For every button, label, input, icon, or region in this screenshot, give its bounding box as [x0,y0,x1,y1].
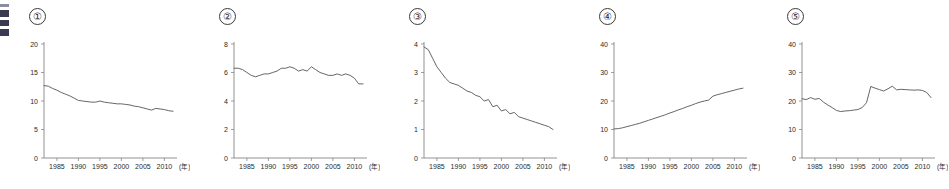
y-tick-label-2-4: 8 [224,41,228,48]
x-tick-label-5-1: 1990 [829,163,845,170]
chart-panel-4: ④010203040198519901995200020052010(年) [570,0,760,189]
y-tick-label-3-1: 1 [414,126,418,133]
y-tick-label-3-2: 2 [414,98,418,105]
x-tick-label-4-4: 2005 [705,163,721,170]
chart-panel-1: ①05101520198519901995200020052010(年) [0,0,190,189]
x-tick-label-1-0: 1985 [49,163,65,170]
y-tick-label-2-3: 6 [224,69,228,76]
x-tick-label-5-0: 1985 [807,163,823,170]
x-tick-label-4-3: 2000 [684,163,700,170]
y-tick-label-3-0: 0 [414,155,418,162]
x-tick-label-3-3: 2000 [494,163,510,170]
y-tick-label-1-1: 5 [34,126,38,133]
x-tick-label-1-2: 1995 [92,163,108,170]
x-axis-unit-label-2: (年) [369,162,380,171]
x-tick-label-2-3: 2000 [304,163,320,170]
x-tick-label-3-0: 1985 [429,163,445,170]
plot-area-1: 05101520198519901995200020052010(年) [0,30,190,185]
x-tick-label-3-2: 1995 [472,163,488,170]
y-tick-label-4-1: 10 [600,126,608,133]
line-chart-4: 010203040198519901995200020052010(年) [570,30,760,185]
x-axis-unit-label-5: (年) [937,162,948,171]
y-tick-label-5-1: 10 [788,126,796,133]
x-tick-label-3-1: 1990 [451,163,467,170]
plot-area-4: 010203040198519901995200020052010(年) [570,30,760,185]
line-chart-3: 01234198519901995200020052010(年) [380,30,570,185]
y-tick-label-4-0: 0 [604,155,608,162]
x-tick-label-2-2: 1995 [282,163,298,170]
x-tick-label-4-2: 1995 [662,163,678,170]
x-tick-label-5-2: 1995 [850,163,866,170]
x-tick-label-4-5: 2010 [727,163,743,170]
y-tick-label-4-4: 40 [600,41,608,48]
data-series-line-4 [614,88,743,129]
x-axis-unit-label-3: (年) [559,162,570,171]
y-tick-label-2-0: 0 [224,155,228,162]
x-tick-label-5-5: 2010 [915,163,931,170]
panel-index-label-4: ④ [599,8,616,25]
panel-index-label-2: ② [219,8,236,25]
y-tick-label-2-2: 4 [224,98,228,105]
data-series-line-5 [802,86,931,111]
y-tick-label-4-3: 30 [600,69,608,76]
chart-panel-3: ③01234198519901995200020052010(年) [380,0,570,189]
x-tick-label-2-1: 1990 [261,163,277,170]
x-tick-label-5-3: 2000 [872,163,888,170]
panel-index-label-1: ① [29,8,46,25]
y-tick-label-3-3: 3 [414,69,418,76]
data-series-line-1 [44,86,173,112]
panel-index-label-3: ③ [409,8,426,25]
x-tick-label-4-1: 1990 [641,163,657,170]
line-chart-1: 05101520198519901995200020052010(年) [0,30,190,185]
panel-index-label-5: ⑤ [787,8,804,25]
y-tick-label-5-3: 30 [788,69,796,76]
data-series-line-2 [234,67,363,84]
y-tick-label-4-2: 20 [600,98,608,105]
plot-area-5: 010203040198519901995200020052010(年) [758,30,948,185]
x-tick-label-5-4: 2005 [893,163,909,170]
y-tick-label-5-0: 0 [792,155,796,162]
y-tick-label-3-4: 4 [414,41,418,48]
x-tick-label-2-5: 2010 [347,163,363,170]
x-tick-label-1-1: 1990 [71,163,87,170]
x-axis-unit-label-1: (年) [179,162,190,171]
line-chart-2: 02468198519901995200020052010(年) [190,30,380,185]
y-tick-label-1-3: 15 [30,69,38,76]
x-tick-label-1-3: 2000 [114,163,130,170]
y-tick-label-2-1: 2 [224,126,228,133]
y-tick-label-1-0: 0 [34,155,38,162]
chart-panel-5: ⑤010203040198519901995200020052010(年) [758,0,948,189]
y-tick-label-5-4: 40 [788,41,796,48]
x-tick-label-1-4: 2005 [135,163,151,170]
chart-panel-2: ②02468198519901995200020052010(年) [190,0,380,189]
plot-area-3: 01234198519901995200020052010(年) [380,30,570,185]
x-tick-label-4-0: 1985 [619,163,635,170]
y-tick-label-5-2: 20 [788,98,796,105]
chart-panel-row: ①05101520198519901995200020052010(年)②024… [0,0,949,189]
chart-sheet: ①05101520198519901995200020052010(年)②024… [0,0,949,189]
x-tick-label-3-4: 2005 [515,163,531,170]
x-tick-label-2-0: 1985 [239,163,255,170]
x-tick-label-3-5: 2010 [537,163,553,170]
data-series-line-3 [424,47,553,130]
x-tick-label-2-4: 2005 [325,163,341,170]
line-chart-5: 010203040198519901995200020052010(年) [758,30,948,185]
y-tick-label-1-4: 20 [30,41,38,48]
x-tick-label-1-5: 2010 [157,163,173,170]
plot-area-2: 02468198519901995200020052010(年) [190,30,380,185]
y-tick-label-1-2: 10 [30,98,38,105]
